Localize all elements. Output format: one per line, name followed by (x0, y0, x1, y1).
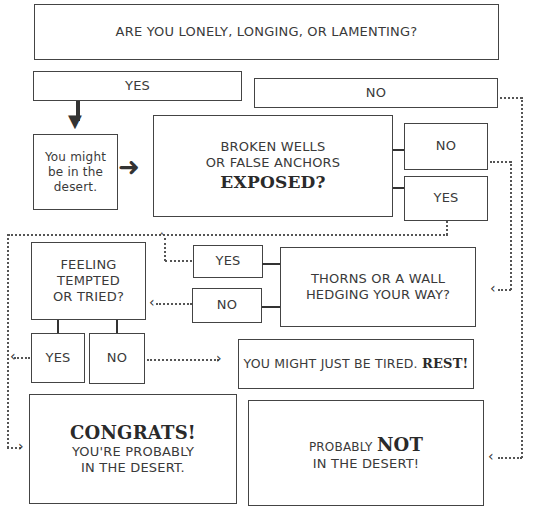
right-arrow-icon: ➜ (118, 154, 140, 180)
q2-yes-down-dotted-line (446, 221, 448, 235)
q3-yes-box: YES (193, 245, 263, 278)
q3-yes-label: YES (215, 253, 240, 269)
q4-yes-dotted-line (14, 357, 30, 359)
q3-line2: HEDGING YOUR WAY? (306, 287, 450, 303)
q4-line3: OR TRIED? (53, 289, 124, 305)
q4-line1: FEELING (60, 257, 116, 273)
q4-no-box: NO (89, 333, 145, 384)
q1-no-box: NO (254, 78, 498, 108)
question-tempted-box: FEELING TEMPTED OR TRIED? (31, 242, 146, 320)
not-desert-result-box: PROBABLY NOT IN THE DESERT! (248, 400, 484, 506)
right-arrow-icon: › (18, 439, 24, 453)
q2-no-label: NO (436, 138, 456, 154)
up-arrow-icon: ˄ (159, 232, 165, 243)
q3-no-label: NO (217, 297, 237, 313)
q3-yes-dotted-line (165, 260, 192, 262)
congrats-line2: IN THE DESERT. (81, 460, 185, 476)
q2-no-box: NO (404, 123, 488, 170)
q2-yes-label: YES (433, 190, 458, 206)
q4-no-label: NO (107, 350, 127, 366)
question-lonely-text: ARE YOU LONELY, LONGING, OR LAMENTING? (116, 24, 418, 40)
not-desert-line1: PROBABLY NOT (309, 434, 423, 457)
q3-line1: THORNS OR A WALL (311, 271, 445, 287)
not-desert-prefix: PROBABLY (309, 440, 373, 454)
congrats-result-box: CONGRATS! YOU'RE PROBABLY IN THE DESERT. (29, 394, 237, 504)
left-outer-dotted-line (7, 234, 9, 448)
q4-no-connector (116, 320, 118, 334)
maybe-desert-text: You might be in the desert. (40, 150, 111, 195)
q3-yes-connector (262, 263, 282, 265)
left-arrow-icon: ‹ (149, 295, 155, 309)
q3-no-dotted-line (156, 303, 192, 305)
to-thorns-dotted-line (498, 289, 511, 291)
q4-yes-box: YES (31, 333, 85, 383)
down-arrow-icon: ▼ (68, 112, 82, 130)
q1-yes-box: YES (33, 71, 242, 101)
left-arrow-icon: ‹ (10, 349, 16, 363)
maybe-desert-box: You might be in the desert. (33, 134, 118, 210)
tired-text: YOU MIGHT JUST BE TIRED. (244, 356, 418, 372)
q4-yes-label: YES (45, 350, 70, 366)
q3-no-connector (262, 306, 282, 308)
question-thorns-box: THORNS OR A WALL HEDGING YOUR WAY? (280, 247, 476, 327)
congrats-emphasis: CONGRATS! (70, 422, 196, 445)
q4-line2: TEMPTED (57, 273, 120, 289)
q2-yes-box: YES (404, 176, 488, 221)
q4-no-dotted-line (147, 359, 219, 361)
q4-yes-connector (57, 320, 59, 334)
q2-yes-left-dotted-line (8, 234, 448, 236)
tired-rest-box: YOU MIGHT JUST BE TIRED. REST! (238, 339, 474, 389)
right-arrow-icon: › (216, 351, 222, 365)
q2-no-down-dotted-line (510, 161, 512, 290)
to-not-desert-dotted-line (498, 457, 522, 459)
left-arrow-icon: ‹ (490, 281, 496, 295)
q1-no-dotted-line (500, 97, 522, 99)
left-arrow-icon: ‹ (488, 449, 494, 463)
q2-no-dotted-line (490, 161, 511, 163)
question-lonely-box: ARE YOU LONELY, LONGING, OR LAMENTING? (34, 4, 499, 60)
not-desert-line2: IN THE DESERT! (313, 456, 419, 472)
q1-no-label: NO (366, 85, 386, 101)
q1-yes-label: YES (125, 78, 150, 94)
right-outer-dotted-line (521, 97, 523, 458)
q3-no-box: NO (192, 288, 262, 323)
q2-emphasis: EXPOSED? (220, 172, 325, 193)
tired-emphasis: REST! (422, 356, 468, 372)
q2-line1: BROKEN WELLS (221, 139, 326, 155)
question-broken-wells-box: BROKEN WELLS OR FALSE ANCHORS EXPOSED? (153, 115, 393, 217)
congrats-line1: YOU'RE PROBABLY (72, 444, 194, 460)
q2-line2: OR FALSE ANCHORS (206, 155, 341, 171)
not-desert-emphasis: NOT (377, 434, 423, 455)
